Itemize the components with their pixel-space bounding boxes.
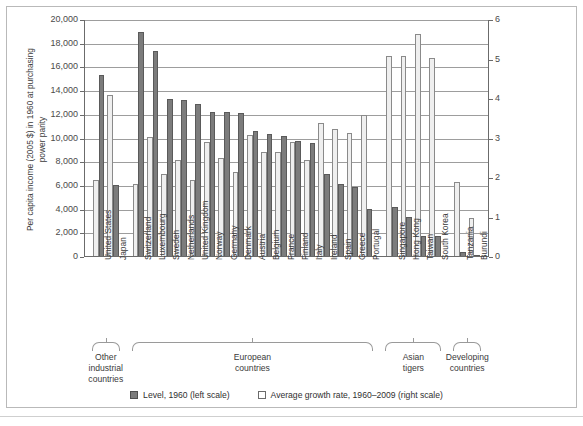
bar-growth-rate <box>454 182 460 257</box>
y-axis-left-tick-label: 2,000 <box>32 227 78 237</box>
category-label: Netherlands <box>186 215 196 260</box>
y-axis-right-tick <box>489 178 493 179</box>
y-axis-left-tick <box>80 91 84 92</box>
bar-growth-rate <box>429 58 435 257</box>
group-label-line: European <box>207 352 297 363</box>
bar-group <box>247 20 261 257</box>
y-axis-right-tick-label: 2 <box>495 172 515 182</box>
category-label: Taiwan <box>425 234 435 260</box>
bar-group <box>318 20 332 257</box>
chart-legend: Level, 1960 (left scale) Average growth … <box>84 388 489 402</box>
bar-group <box>218 20 232 257</box>
category-label: Tanzania <box>465 226 475 260</box>
bar-group <box>261 20 275 257</box>
y-axis-left-tick <box>80 233 84 234</box>
category-label: Sweden <box>171 230 181 260</box>
group-bracket-stem <box>467 338 468 342</box>
y-axis-left-tick-label: 16,000 <box>32 61 78 71</box>
category-label: Ireland <box>329 234 339 260</box>
y-axis-left-tick <box>80 44 84 45</box>
group-label: Developingcountries <box>422 352 512 374</box>
bar-level-1960 <box>310 143 316 257</box>
bar-group <box>275 20 289 257</box>
group-bracket <box>132 342 374 351</box>
bar-group <box>469 20 483 257</box>
category-label: France <box>286 234 296 260</box>
category-label: Austria <box>257 234 267 260</box>
figure-root: Per capita income (2005 $) in 1960 at pu… <box>0 0 583 426</box>
group-bracket <box>385 342 441 351</box>
y-axis-left-tick <box>80 115 84 116</box>
category-label: Spain <box>343 239 353 260</box>
group-label-line: countries <box>61 374 151 385</box>
category-label: United Kingdom <box>200 200 210 260</box>
y-axis-left-tick <box>80 67 84 68</box>
bar-group <box>454 20 468 257</box>
y-axis-right-tick-label: 5 <box>495 54 515 64</box>
category-label: Norway <box>214 232 224 260</box>
y-axis-left-tick-label: 12,000 <box>32 109 78 119</box>
bar-group <box>347 20 361 257</box>
legend-label-growth: Average growth rate, 1960–2009 (right sc… <box>271 390 443 400</box>
left-axis-line <box>84 20 85 257</box>
legend-item-level: Level, 1960 (left scale) <box>130 390 229 400</box>
y-axis-left-tick-label: 10,000 <box>32 133 78 143</box>
category-label: Germany <box>229 226 239 260</box>
category-label: Portugal <box>371 229 381 260</box>
y-axis-left-tick <box>80 20 84 21</box>
y-axis-left-tick <box>80 186 84 187</box>
bar-group <box>233 20 247 257</box>
y-axis-right-tick <box>489 218 493 219</box>
y-axis-left-tick-label: 4,000 <box>32 204 78 214</box>
bar-group <box>361 20 375 257</box>
y-axis-left-tick <box>80 162 84 163</box>
legend-item-growth: Average growth rate, 1960–2009 (right sc… <box>258 390 443 400</box>
y-axis-right-tick-label: 0 <box>495 251 515 261</box>
category-label: Greece <box>357 233 367 260</box>
group-bracket <box>453 342 481 351</box>
category-label: Switzerland <box>143 217 153 260</box>
y-axis-right-tick <box>489 60 493 61</box>
group-label-line: Other <box>61 352 151 363</box>
category-label: Finland <box>300 233 310 260</box>
y-axis-right-tick-label: 6 <box>495 14 515 24</box>
y-axis-left-tick-label: 18,000 <box>32 38 78 48</box>
y-axis-right-tick-label: 4 <box>495 93 515 103</box>
legend-swatch-growth-icon <box>258 391 266 399</box>
bar-group <box>332 20 346 257</box>
group-label-line: countries <box>422 363 512 374</box>
group-bracket <box>92 342 120 351</box>
category-label: Luxembourg <box>157 213 167 260</box>
y-axis-right-tick <box>489 20 493 21</box>
y-axis-right-tick-label: 1 <box>495 212 515 222</box>
bar-group <box>290 20 304 257</box>
legend-swatch-level-icon <box>130 391 138 399</box>
category-label: Japan <box>118 237 128 260</box>
y-axis-right-tick <box>489 257 493 258</box>
bottom-rule <box>0 416 583 417</box>
group-label-line: industrial <box>61 363 151 374</box>
y-axis-left-tick-label: 14,000 <box>32 85 78 95</box>
group-label: Otherindustrialcountries <box>61 352 151 385</box>
y-axis-left-tick-label: 8,000 <box>32 156 78 166</box>
y-axis-left-tick <box>80 257 84 258</box>
y-axis-right-tick-label: 3 <box>495 133 515 143</box>
y-axis-right-tick <box>489 99 493 100</box>
group-label: Europeancountries <box>207 352 297 374</box>
group-bracket-stem <box>413 338 414 342</box>
y-axis-left-tick-label: 6,000 <box>32 180 78 190</box>
category-label: Italy <box>314 245 324 260</box>
category-label: Belgium <box>271 230 281 260</box>
y-axis-left-tick-label: 0 <box>32 251 78 261</box>
group-bracket-stem <box>106 338 107 342</box>
bar-group <box>304 20 318 257</box>
group-bracket-stem <box>252 338 253 342</box>
y-axis-left-tick <box>80 139 84 140</box>
category-label: Hong Kong <box>411 218 421 260</box>
group-label-line: Developing <box>422 352 512 363</box>
category-label: Singapore <box>397 222 407 260</box>
category-label: Burundi <box>479 231 489 260</box>
category-label: South Korea <box>440 213 450 260</box>
category-label: United States <box>103 210 113 260</box>
y-axis-left-tick <box>80 210 84 211</box>
